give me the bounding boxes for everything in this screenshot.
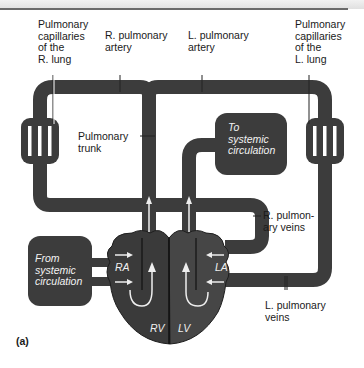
panel-label: (a) — [16, 336, 29, 348]
label-r-lung-capillaries: Pulmonary capillaries of the R. lung — [38, 19, 88, 65]
label-from-systemic: From systemic circulation — [35, 253, 82, 288]
chamber-la: LA — [215, 261, 228, 273]
heart — [107, 230, 229, 344]
label-to-systemic: To systemic circulation — [228, 122, 275, 157]
label-l-lung-capillaries: Pulmonary capillaries of the L. lung — [295, 19, 345, 65]
label-pulmonary-trunk: Pulmonary trunk — [78, 131, 128, 154]
r-pulmonary-artery-pipe — [40, 87, 149, 250]
chamber-rv: RV — [150, 322, 164, 334]
label-l-pulmonary-artery: L. pulmonary artery — [188, 30, 249, 53]
label-l-pulmonary-veins: L. pulmonary veins — [265, 300, 326, 323]
label-r-pulmonary-artery: R. pulmonary artery — [105, 30, 167, 53]
chamber-ra: RA — [115, 261, 130, 273]
chamber-lv: LV — [178, 322, 190, 334]
label-r-pulmonary-veins: R. pulmon- ary veins — [263, 210, 314, 233]
